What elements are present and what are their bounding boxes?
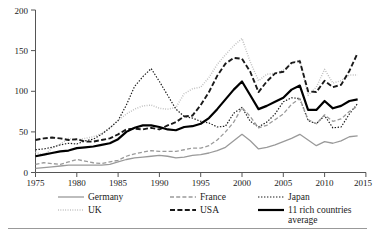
series-line (36, 53, 358, 142)
data-series-group (36, 38, 358, 168)
legend-label: 11 rich countries (288, 205, 352, 215)
x-tick-label: 1985 (109, 178, 128, 188)
legend-label: Germany (88, 192, 124, 202)
x-tick-label: 2015 (354, 178, 373, 188)
x-tick-label: 1980 (68, 178, 87, 188)
x-tick-label: 2000 (233, 178, 252, 188)
x-tick-label: 1995 (192, 178, 211, 188)
y-tick-label: 0 (24, 168, 29, 178)
legend-label: USA (200, 205, 219, 215)
legend-label: Japan (288, 192, 310, 202)
x-axis-tick-labels: 1975 1980 1985 1990 1995 2000 2005 2010 … (27, 178, 373, 188)
legend-label-line2: average (288, 215, 318, 225)
y-tick-label: 150 (15, 46, 29, 56)
x-tick-label: 1990 (150, 178, 169, 188)
line-chart: 0 50 100 150 200 1975 1980 1985 1990 199… (0, 0, 375, 232)
legend-label: UK (88, 205, 102, 215)
series-line (36, 38, 358, 155)
y-axis-tick-labels: 0 50 100 150 200 (15, 6, 29, 178)
x-tick-label: 1975 (27, 178, 46, 188)
chart-figure: 0 50 100 150 200 1975 1980 1985 1990 199… (0, 0, 375, 232)
series-line (36, 134, 358, 168)
series-line (36, 82, 358, 157)
x-tick-label: 2005 (274, 178, 293, 188)
y-tick-label: 200 (15, 6, 29, 16)
y-tick-label: 100 (15, 86, 29, 96)
legend-label: France (200, 192, 226, 202)
chart-legend: GermanyFranceJapanUKUSA11 rich countries… (58, 192, 352, 225)
x-tick-label: 2010 (316, 178, 335, 188)
y-axis-ticks (31, 10, 36, 173)
y-tick-label: 50 (19, 127, 29, 137)
x-axis-ticks (36, 173, 366, 178)
